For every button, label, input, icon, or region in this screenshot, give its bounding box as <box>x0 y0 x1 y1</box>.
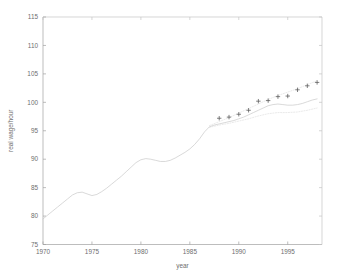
y-tick-label: 100 <box>27 99 38 106</box>
y-tick-label: 90 <box>31 155 39 162</box>
y-tick-label: 80 <box>31 212 39 219</box>
x-axis-title: year <box>176 262 189 270</box>
x-tick-label: 1990 <box>232 248 247 255</box>
chart-background <box>0 0 340 280</box>
chart-svg: 7580859095100105110115197019751980198519… <box>0 0 340 280</box>
x-tick-label: 1980 <box>134 248 149 255</box>
y-tick-label: 105 <box>27 70 38 77</box>
y-tick-label: 95 <box>31 127 39 134</box>
y-tick-label: 110 <box>28 42 39 49</box>
x-tick-label: 1985 <box>183 248 198 255</box>
chart-figure: 7580859095100105110115197019751980198519… <box>0 0 340 280</box>
x-tick-label: 1995 <box>281 248 296 255</box>
y-axis-title: real wage/hour <box>7 109 15 152</box>
y-tick-label: 85 <box>31 184 39 191</box>
x-tick-label: 1975 <box>85 248 100 255</box>
x-tick-label: 1970 <box>36 248 51 255</box>
y-tick-label: 115 <box>28 13 39 20</box>
